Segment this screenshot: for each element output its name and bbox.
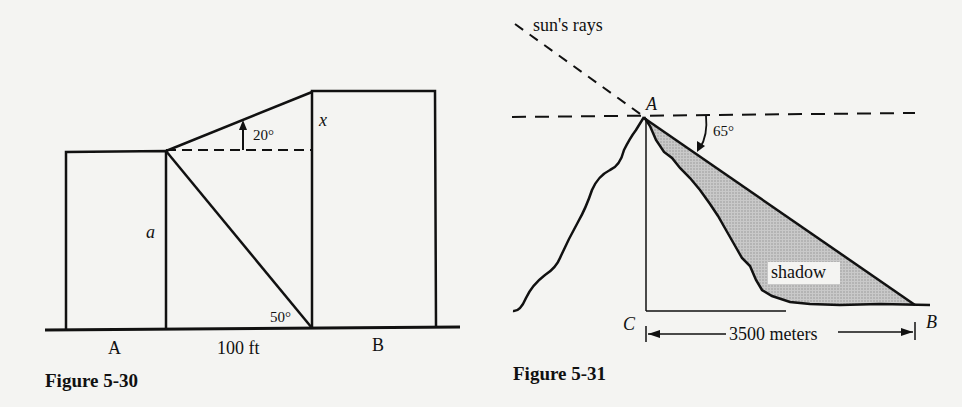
figure-5-31: sun's rays A 65° shadow C B 3500 meters … bbox=[512, 15, 937, 384]
angle-depression-label: 50° bbox=[270, 309, 291, 325]
shadow-label: shadow bbox=[771, 262, 826, 282]
figure-caption: Figure 5-31 bbox=[513, 363, 606, 384]
figure-caption: Figure 5-30 bbox=[45, 370, 138, 391]
building-a-label: A bbox=[108, 338, 121, 358]
shadow-end-b-label: B bbox=[926, 312, 937, 332]
sun-rays-line bbox=[515, 24, 643, 116]
dashed-horizontal bbox=[512, 113, 915, 117]
height-x-label: x bbox=[318, 110, 327, 130]
dimension-arrow-right-icon bbox=[901, 328, 913, 336]
peak-a-label: A bbox=[645, 94, 658, 114]
distance-label: 3500 meters bbox=[729, 324, 817, 344]
ground-line bbox=[45, 327, 460, 330]
figures-canvas: 20° x a 50° A 100 ft B Figure 5-30 bbox=[0, 0, 962, 407]
angle-arrow-head-icon bbox=[697, 141, 705, 152]
building-b bbox=[312, 91, 436, 329]
line-of-sight-down bbox=[166, 151, 312, 328]
distance-label: 100 ft bbox=[217, 338, 260, 358]
building-b-label: B bbox=[372, 335, 384, 355]
figure-5-30: 20° x a 50° A 100 ft B Figure 5-30 bbox=[45, 91, 460, 391]
foot-c-label: C bbox=[623, 314, 636, 334]
angle-label: 65° bbox=[713, 123, 734, 139]
line-of-sight-up bbox=[166, 92, 312, 151]
dimension-arrow-left-icon bbox=[648, 330, 660, 338]
mountain-left-slope bbox=[513, 117, 644, 311]
sun-rays-label: sun's rays bbox=[533, 15, 603, 35]
angle-arc bbox=[700, 116, 706, 148]
angle-elevation-label: 20° bbox=[253, 127, 274, 143]
height-a-label: a bbox=[146, 222, 155, 242]
